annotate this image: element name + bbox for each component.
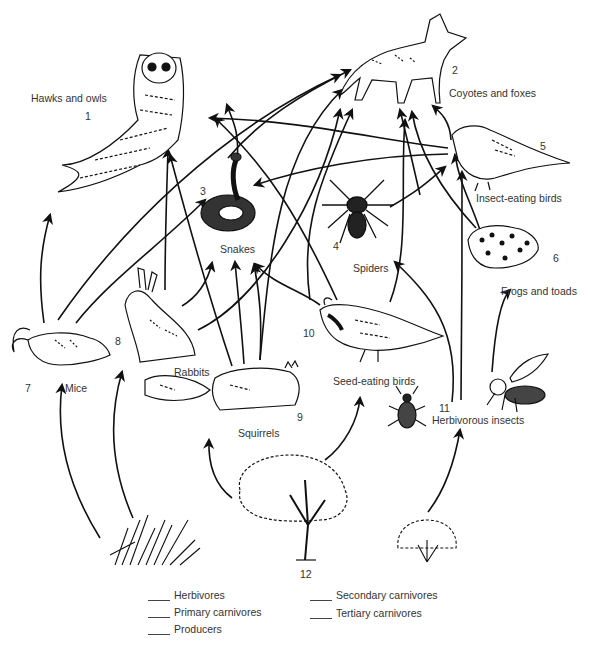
number-5: 5	[540, 140, 546, 152]
label-herbivorous-insects: Herbivorous insects	[432, 414, 524, 426]
legend-left: Herbivores Primary carnivores Producers	[148, 582, 262, 635]
squirrel-icon	[145, 361, 299, 410]
label-mice: Mice	[65, 382, 87, 394]
number-7: 7	[25, 382, 31, 394]
number-6: 6	[553, 252, 559, 264]
label-hawks-and-owls: Hawks and owls	[31, 92, 107, 104]
quail-icon	[320, 298, 443, 362]
number-3: 3	[200, 185, 206, 197]
number-11: 11	[439, 402, 450, 414]
frog-icon	[468, 226, 538, 268]
coyote-icon	[340, 14, 466, 103]
number-1: 1	[85, 110, 91, 122]
label-squirrels: Squirrels	[238, 427, 279, 439]
shrub-icon	[398, 520, 456, 562]
legend-item-primary-carnivores: Primary carnivores	[148, 599, 262, 618]
spider-icon	[322, 180, 394, 243]
answer-blank[interactable]	[148, 625, 170, 635]
number-12: 12	[300, 568, 312, 580]
label-spiders: Spiders	[353, 262, 389, 274]
legend-item-tertiary-carnivores: Tertiary carnivores	[310, 600, 438, 619]
snake-icon	[201, 153, 255, 231]
label-coyotes-and-foxes: Coyotes and foxes	[449, 87, 536, 99]
answer-blank[interactable]	[310, 591, 332, 601]
rabbit-icon	[125, 268, 195, 362]
label-insect-eating-birds: Insect-eating birds	[476, 192, 562, 204]
beetle-icon	[388, 386, 426, 428]
legend-right: Secondary carnivores Tertiary carnivores	[310, 582, 438, 619]
number-9: 9	[297, 411, 303, 423]
label-seed-eating-birds: Seed-eating birds	[333, 375, 415, 387]
number-8: 8	[115, 335, 121, 347]
label-snakes: Snakes	[220, 243, 255, 255]
grass-icon	[110, 515, 200, 565]
songbird-icon	[452, 126, 570, 191]
legend-item-secondary-carnivores: Secondary carnivores	[310, 582, 438, 601]
answer-blank[interactable]	[148, 591, 170, 601]
legend-item-producers: Producers	[148, 616, 262, 635]
answer-blank[interactable]	[310, 609, 332, 619]
number-4: 4	[333, 240, 339, 252]
bee-icon	[487, 354, 548, 412]
mouse-icon	[13, 328, 110, 365]
number-2: 2	[452, 64, 458, 76]
answer-blank[interactable]	[148, 608, 170, 618]
number-10: 10	[303, 327, 315, 339]
label-rabbits: Rabbits	[174, 366, 210, 378]
tree-icon	[239, 455, 347, 560]
label-frogs-and-toads: Frogs and toads	[501, 285, 577, 297]
owl-icon	[58, 53, 184, 192]
